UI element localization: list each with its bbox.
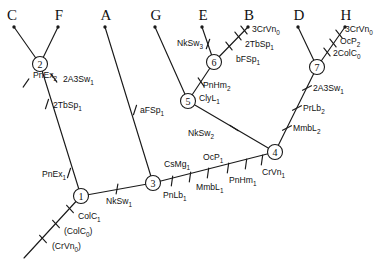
tip-D-dot [296,25,299,28]
tip-E-label: E [198,7,207,23]
char-2TbSp1-6-label: 2TbSp1 [245,39,274,51]
phylogenetic-tree-diagram: 1234567 CFAGEBDH PnEx22A3Sw12TbSp1PnEx1C… [0,0,383,263]
char-PnLb1-label: PnLb1 [163,190,187,202]
node-3[interactable]: 3 [146,176,161,191]
tree-canvas: 1234567 CFAGEBDH PnEx22A3Sw12TbSp1PnEx1C… [0,0,383,263]
tip-C[interactable]: C [7,7,17,29]
char-NkSw1-label: NkSw1 [106,196,132,208]
char-PnEx2-tick [23,79,29,87]
char-3CrVn0-B-label: 3CrVn0 [252,24,280,36]
char-OcP1-label: OcP1 [203,152,224,164]
tip-A[interactable]: A [101,7,112,29]
char-ColC1-tick [67,205,74,212]
tip-D-label: D [294,7,305,23]
tip-C-dot [12,25,15,28]
node-1[interactable]: 1 [74,189,89,204]
node-3-label: 3 [151,178,156,189]
tip-F-label: F [55,7,63,23]
char-2TbSp1-1-tick [45,99,48,109]
char-MmbL2-tick [283,126,292,131]
character-labels-group: PnEx22A3Sw12TbSp1PnEx1ColC1(ColC0)(CrVn0… [33,24,373,253]
char-ClyL1-label: ClyL1 [199,93,220,105]
char-CsMg1-label: CsMg1 [164,159,190,171]
char-CrVn0-label: (CrVn0) [52,241,81,253]
char-CrVn1-tick [261,155,262,165]
tip-A-label: A [101,7,112,23]
char-2A3Sw1-7-label: 2A3Sw1 [313,83,344,95]
char-PnEx1-tick [67,168,70,178]
char-NkSw2-label: NkSw2 [188,128,214,140]
tip-G-label: G [151,7,162,23]
char-3CrVn0-H-label: 3CrVn0 [345,24,373,36]
branches-group [14,27,345,258]
char-CrVn1-label: CrVn1 [262,167,286,179]
char-aFSp1-tick [133,105,136,115]
tip-E-dot [200,25,203,28]
char-ColC0-label: (ColC0) [64,226,93,238]
node-7-label: 7 [315,62,320,73]
tip-B-label: B [244,7,254,23]
char-bFSp1-label: bFSp1 [236,54,261,66]
tip-A-dot [103,25,106,28]
tip-D[interactable]: D [294,7,305,29]
node-6[interactable]: 6 [207,55,222,70]
char-PnHm1-label: PnHm1 [229,175,257,187]
char-NkSw2-tick [230,125,238,130]
char-2A3Sw1-CF-label: 2A3Sw1 [63,74,94,86]
node-5[interactable]: 5 [181,94,196,109]
node-2-label: 2 [38,59,43,70]
char-OcP2-label: OcP2 [340,36,361,48]
tip-G[interactable]: G [151,7,162,29]
tip-H-label: H [341,7,352,23]
char-aFSp1-label: aFSp1 [140,105,165,117]
char-PnHm1-tick [245,159,246,169]
tip-C-label: C [7,7,17,23]
node-5-label: 5 [186,96,191,107]
tip-F[interactable]: F [55,7,63,29]
tip-B-dot [246,25,249,28]
tip-G-dot [153,25,156,28]
char-MmbL1-label: MmbL1 [196,182,224,194]
char-PnHm2-label: PnHm2 [203,80,231,92]
tip-F-dot [56,25,59,28]
char-PnEx1-label: PnEx1 [42,169,67,181]
node-1-label: 1 [79,191,84,202]
char-NkSw3-label: NkSw3 [177,38,203,50]
char-2ColC0-label: 2ColC0 [333,48,361,60]
node-4[interactable]: 4 [268,145,283,160]
char-PnLb1-tick [171,176,172,186]
node-7[interactable]: 7 [310,60,325,75]
node-4-label: 4 [273,147,278,158]
tip-E[interactable]: E [198,7,207,29]
node-6-label: 6 [212,57,217,68]
char-PrLb2-label: PrLb2 [303,103,325,115]
char-CrVn0-tick [40,235,47,242]
tip-labels-group: CFAGEBDH [7,7,352,29]
char-ColC1-label: ColC1 [78,211,101,223]
character-ticks-group [23,26,342,243]
char-MmbL2-label: MmbL2 [293,123,321,135]
char-PnEx2-label: PnEx2 [33,70,58,82]
char-2TbSp1-1-label: 2TbSp1 [53,100,82,112]
